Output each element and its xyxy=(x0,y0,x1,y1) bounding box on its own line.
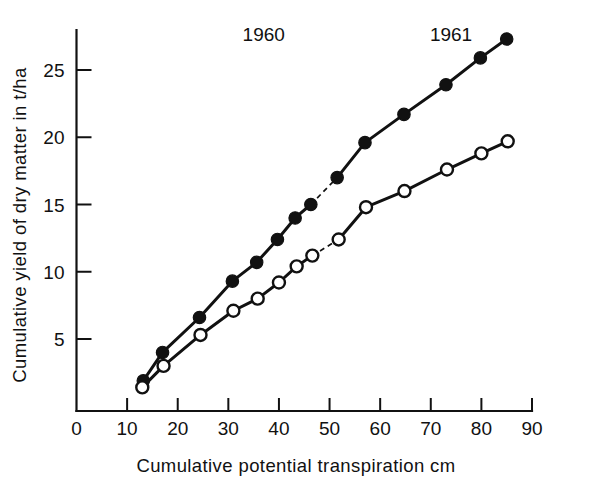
data-point-filled xyxy=(271,233,283,245)
x-tick-label: 70 xyxy=(420,418,441,439)
chart-ticks xyxy=(77,70,533,411)
y-tick-label: 15 xyxy=(43,195,64,216)
data-point-filled xyxy=(500,33,512,45)
chart-figure: 0102030405060708090510152025 19601961 Cu… xyxy=(0,0,596,485)
data-point-open xyxy=(502,135,514,147)
x-tick-label: 20 xyxy=(167,418,188,439)
x-tick-label: 0 xyxy=(71,418,82,439)
data-point-open xyxy=(306,250,318,262)
data-point-filled xyxy=(440,79,452,91)
x-tick-label: 30 xyxy=(218,418,239,439)
data-point-filled xyxy=(359,136,371,148)
data-point-open xyxy=(252,293,264,305)
chart-annotations: 19601961 xyxy=(243,24,473,45)
x-tick-label: 40 xyxy=(268,418,289,439)
x-axis-title: Cumulative potential transpiration cm xyxy=(136,455,455,476)
data-point-filled xyxy=(398,108,410,120)
y-tick-label: 10 xyxy=(43,262,64,283)
x-tick-label: 60 xyxy=(370,418,391,439)
data-point-open xyxy=(195,329,207,341)
chart-series xyxy=(136,33,513,394)
data-point-open xyxy=(333,233,345,245)
x-tick-label: 50 xyxy=(319,418,340,439)
chart-tick-labels: 0102030405060708090510152025 xyxy=(43,60,542,439)
data-point-open xyxy=(273,277,285,289)
y-tick-label: 20 xyxy=(43,127,64,148)
y-tick-label: 5 xyxy=(54,329,65,350)
data-point-open xyxy=(360,201,372,213)
y-tick-label: 25 xyxy=(43,60,64,81)
series-lower-open-circles xyxy=(136,135,513,393)
data-point-open xyxy=(441,164,453,176)
chart-canvas: 0102030405060708090510152025 19601961 Cu… xyxy=(0,0,596,485)
data-point-filled xyxy=(331,171,343,183)
data-point-filled xyxy=(289,212,301,224)
year-label-1960: 1960 xyxy=(243,24,285,45)
data-point-filled xyxy=(305,198,317,210)
x-tick-label: 80 xyxy=(471,418,492,439)
data-point-open xyxy=(398,185,410,197)
x-tick-label: 90 xyxy=(521,418,542,439)
data-point-open xyxy=(291,260,303,272)
data-point-filled xyxy=(156,346,168,358)
data-point-filled xyxy=(193,311,205,323)
data-point-open xyxy=(227,305,239,317)
data-point-open xyxy=(475,147,487,159)
data-point-filled xyxy=(226,275,238,287)
x-tick-label: 10 xyxy=(117,418,138,439)
chart-axes xyxy=(77,30,533,411)
data-point-filled xyxy=(474,52,486,64)
data-point-open xyxy=(136,381,148,393)
data-point-open xyxy=(158,360,170,372)
y-axis-title: Cumulative yield of dry matter in t/ha xyxy=(9,67,30,383)
data-point-filled xyxy=(250,256,262,268)
year-label-1961: 1961 xyxy=(430,24,472,45)
